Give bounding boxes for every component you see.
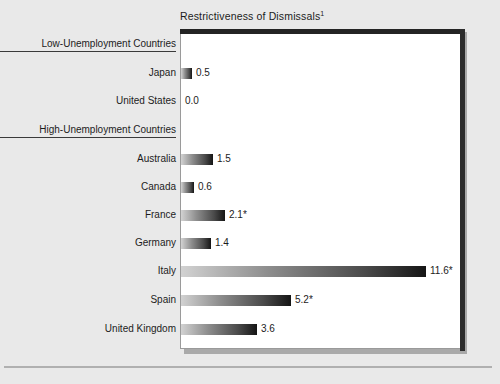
bar-value-label: 1.5 [217,150,231,168]
chart-row: Canada0.6 [0,178,500,196]
chart-figure: Restrictiveness of Dismissals1 Low-Unemp… [0,0,500,384]
bottom-divider-rule [4,366,492,368]
category-label: Italy [0,262,176,280]
chart-row: France2.1* [0,206,500,224]
value-bar [181,68,192,79]
bar-value-label: 0.6 [198,178,212,196]
bar-value-label: 0.5 [196,64,210,82]
category-label: Spain [0,291,176,309]
section-header-row: Low-Unemployment Countries [0,36,500,54]
plot-frame-top-edge [180,29,465,34]
chart-row: United States0.0 [0,92,500,110]
chart-row: Germany1.4 [0,234,500,252]
chart-row: Australia1.5 [0,150,500,168]
value-bar [181,238,211,249]
chart-title: Restrictiveness of Dismissals1 [180,10,324,22]
bar-value-label: 5.2* [295,291,313,309]
value-bar [181,182,194,193]
category-label: France [0,206,176,224]
category-label: Japan [0,64,176,82]
section-header-label: Low-Unemployment Countries [0,36,176,52]
category-label: Canada [0,178,176,196]
category-label: Australia [0,150,176,168]
bar-value-label: 11.6* [430,262,453,280]
category-label: Germany [0,234,176,252]
chart-title-superscript: 1 [320,10,324,17]
chart-title-text: Restrictiveness of Dismissals [180,10,320,22]
bar-value-label: 0.0 [185,92,199,110]
value-bar [181,295,291,306]
value-bar [181,266,426,277]
chart-row: Japan0.5 [0,64,500,82]
chart-row: Italy11.6* [0,262,500,280]
chart-row: United Kingdom3.6 [0,320,500,338]
value-bar [181,324,257,335]
value-bar [181,154,213,165]
category-label: United States [0,92,176,110]
section-header-row: High-Unemployment Countries [0,122,500,140]
bar-value-label: 1.4 [215,234,229,252]
value-bar [181,210,225,221]
bar-value-label: 3.6 [261,320,275,338]
category-label: United Kingdom [0,320,176,338]
chart-row: Spain5.2* [0,291,500,309]
bar-value-label: 2.1* [229,206,247,224]
section-header-label: High-Unemployment Countries [0,122,176,138]
